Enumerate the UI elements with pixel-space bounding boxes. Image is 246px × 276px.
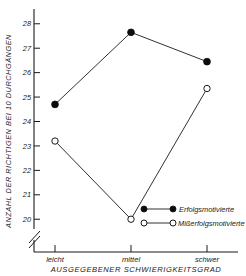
data-point-1-schwer — [204, 58, 211, 65]
line-chart: 282726252423222120 leichtmittelschwer AN… — [0, 0, 246, 276]
series-line-1 — [55, 32, 207, 104]
y-tick-label: 27 — [22, 44, 32, 53]
legend-label-misserfolgsmotivierte: Mißerfolgsmotivierte — [178, 219, 245, 228]
x-tick-label-mittel: mittel — [122, 255, 140, 264]
legend-marker-filled-left — [141, 206, 147, 212]
data-point-1-mittel — [128, 29, 135, 36]
y-tick-label: 20 — [22, 215, 32, 224]
y-axis-title: ANZAHL DER RICHTIGEN BEI 10 DURCHGÄNGEN — [4, 34, 13, 229]
data-point-2-mittel — [128, 216, 134, 222]
y-tick-label: 26 — [22, 68, 32, 77]
x-tick-group: leichtmittelschwer — [46, 245, 219, 264]
y-tick-label: 21 — [22, 190, 31, 199]
y-tick-label: 23 — [22, 142, 32, 151]
x-tick-label-schwer: schwer — [195, 255, 220, 264]
y-tick-group: 282726252423222120 — [22, 19, 40, 223]
series-layer — [52, 29, 211, 223]
legend-marker-filled-right — [170, 206, 176, 212]
data-point-1-leicht — [52, 101, 59, 108]
y-tick-label: 24 — [22, 117, 31, 126]
data-point-2-schwer — [204, 85, 210, 91]
y-tick-label: 25 — [22, 93, 32, 102]
series-line-2 — [55, 89, 207, 220]
legend-label-erfolgsmotivierte: Erfolgsmotivierte — [179, 205, 234, 214]
y-tick-label: 28 — [22, 19, 32, 28]
x-axis-title: AUSGEGEBENER SCHWIERIGKEITSGRAD — [50, 265, 222, 274]
legend-marker-open-right — [170, 220, 176, 226]
data-point-2-leicht — [52, 138, 58, 144]
chart-container: 282726252423222120 leichtmittelschwer AN… — [0, 0, 246, 276]
legend-marker-open-left — [141, 220, 147, 226]
y-tick-label: 22 — [22, 166, 31, 175]
chart-legend: Erfolgsmotivierte Mißerfolgsmotivierte — [141, 205, 245, 228]
x-tick-label-leicht: leicht — [46, 255, 65, 264]
